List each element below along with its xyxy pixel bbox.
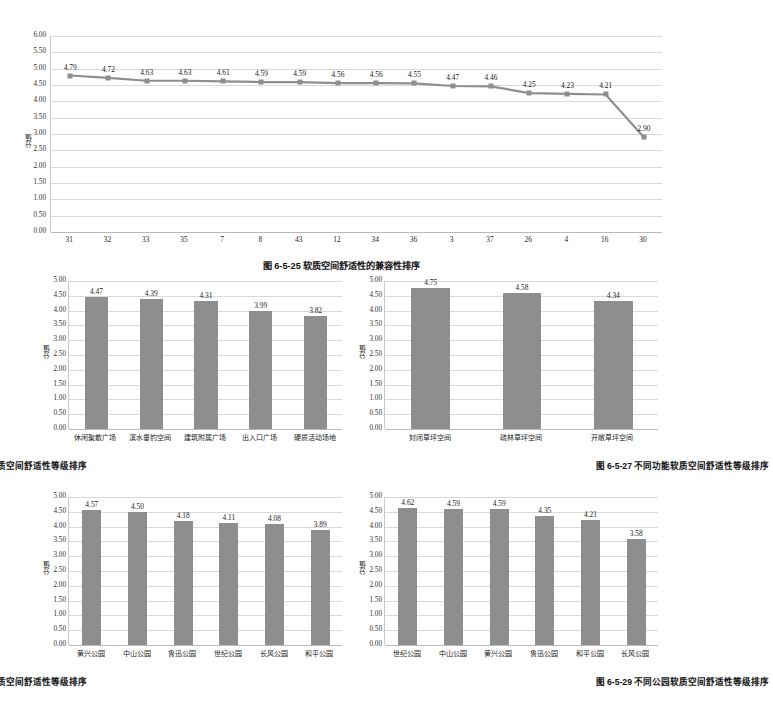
data-point-marker (68, 73, 73, 78)
bar-value-label: 4.50 (131, 502, 144, 511)
data-point-marker (450, 83, 455, 88)
x-category-label: 封闭草坪空间 (409, 432, 451, 442)
y-tick-label: 5.00 (53, 277, 66, 284)
bar (265, 524, 284, 645)
data-point-label: 4.47 (446, 73, 459, 82)
x-category-label: 32 (104, 235, 111, 244)
y-tick-label: 0.00 (369, 641, 382, 648)
bar (174, 521, 193, 645)
x-axis-categories: 世纪公园中山公园黄兴公园鲁迅公园和平公园长风公园 (384, 647, 658, 659)
data-point-label: 4.59 (293, 69, 306, 78)
x-category-label: 长风公园 (621, 648, 649, 658)
bar-value-label: 4.62 (401, 498, 414, 507)
x-category-label: 35 (180, 235, 187, 244)
data-point-marker (488, 84, 493, 89)
y-tick-label: 0.50 (369, 627, 382, 634)
bar (249, 311, 272, 429)
bar-value-label: 3.82 (309, 306, 322, 315)
x-category-label: 建筑附属广场 (184, 432, 226, 442)
bar (535, 516, 554, 645)
data-point-label: 4.63 (178, 68, 191, 77)
bar (411, 288, 449, 429)
grid-line (69, 281, 342, 282)
grid-line (385, 527, 658, 528)
x-category-label: 滨水垂钓空间 (129, 432, 171, 442)
y-tick-label: 4.50 (53, 508, 66, 515)
bar-value-label: 4.35 (538, 506, 551, 515)
bar-value-label: 4.11 (222, 513, 235, 522)
x-category-label: 16 (601, 235, 608, 244)
bar-value-label: 4.34 (607, 291, 620, 300)
y-axis-ticks: 0.000.501.001.502.002.503.003.504.004.50… (22, 36, 48, 232)
data-point-label: 4.56 (331, 70, 344, 79)
grid-line (69, 512, 342, 513)
data-point-label: 4.59 (255, 69, 268, 78)
data-point-label: 4.61 (217, 68, 230, 77)
bar-value-label: 4.75 (424, 278, 437, 287)
bar-value-label: 4.57 (85, 500, 98, 509)
x-category-label: 和平公园 (305, 648, 333, 658)
caption-6-5-26: 图 6-5-26 不同功能硬质空间舒适性等级排序 (0, 459, 342, 471)
x-category-label: 43 (295, 235, 302, 244)
x-category-label: 硬质活动场地 (294, 432, 336, 442)
grid-line (385, 615, 658, 616)
data-point-marker (412, 81, 417, 86)
y-tick-label: 5.00 (33, 65, 46, 72)
figure-6-5-26: 分值 0.000.501.001.502.002.503.003.504.004… (42, 281, 342, 441)
bar-value-label: 4.59 (447, 499, 460, 508)
bar-value-label: 4.59 (493, 499, 506, 508)
y-tick-label: 3.00 (33, 130, 46, 137)
data-point-label: 4.79 (64, 63, 77, 72)
caption-6-5-27: 图 6-5-27 不同功能软质空间舒适性等级排序 (341, 459, 773, 471)
y-tick-label: 2.50 (33, 147, 46, 154)
bar-value-label: 4.58 (516, 283, 529, 292)
bar (311, 530, 330, 645)
data-point-marker (297, 80, 302, 85)
data-point-marker (106, 75, 111, 80)
y-tick-label: 1.50 (53, 597, 66, 604)
caption-6-5-25: 图 6-5-25 软质空间舒适性的兼容性排序 (0, 258, 683, 272)
y-tick-label: 5.00 (369, 493, 382, 500)
y-tick-label: 2.50 (53, 351, 66, 358)
data-point-marker (603, 92, 608, 97)
bar-value-label: 4.39 (145, 289, 158, 298)
y-tick-label: 3.00 (53, 553, 66, 560)
data-point-label: 4.72 (102, 65, 115, 74)
x-category-label: 休闲聚散广场 (74, 432, 116, 442)
plot-area-6-5-28: 4.574.504.184.114.083.89 (68, 497, 342, 645)
figure-6-5-25: 分值 0.000.501.001.502.002.503.003.504.004… (22, 36, 662, 261)
x-category-label: 开敞草坪空间 (591, 432, 633, 442)
bar (194, 301, 217, 429)
grid-line (385, 630, 658, 631)
grid-line (385, 556, 658, 557)
grid-line (51, 232, 662, 233)
grid-line (69, 630, 342, 631)
bar (398, 508, 417, 645)
grid-line (385, 645, 658, 646)
y-tick-label: 4.00 (53, 307, 66, 314)
x-category-label: 鲁迅公园 (168, 648, 196, 658)
data-point-label: 4.23 (561, 81, 574, 90)
x-category-label: 12 (333, 235, 340, 244)
figure-6-5-27: 分值 0.000.501.001.502.002.503.003.504.004… (358, 281, 658, 441)
x-category-label: 7 (220, 235, 224, 244)
y-tick-label: 1.00 (369, 396, 382, 403)
y-tick-label: 3.50 (369, 538, 382, 545)
y-tick-label: 3.50 (369, 322, 382, 329)
bar (304, 316, 327, 429)
data-point-marker (259, 80, 264, 85)
bar (594, 301, 632, 429)
data-point-marker (182, 78, 187, 83)
data-point-marker (527, 91, 532, 96)
bar-value-label: 4.47 (90, 287, 103, 296)
y-tick-label: 1.00 (369, 612, 382, 619)
x-category-label: 黄兴公园 (77, 648, 105, 658)
x-category-label: 疏林草坪空间 (500, 432, 542, 442)
y-tick-label: 6.00 (33, 32, 46, 39)
x-category-label: 4 (565, 235, 569, 244)
bar-value-label: 4.08 (268, 514, 281, 523)
x-category-label: 34 (371, 235, 378, 244)
bar (503, 293, 541, 429)
y-tick-label: 0.00 (53, 641, 66, 648)
